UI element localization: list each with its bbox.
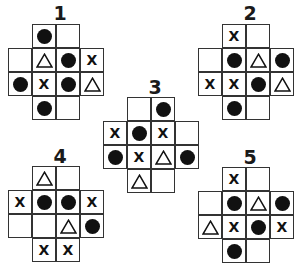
grid-cell[interactable]: [246, 191, 270, 215]
filled-dot-icon: [275, 53, 290, 68]
grid-cell[interactable]: [175, 145, 199, 169]
grid-cell[interactable]: [56, 48, 80, 72]
triangle-icon: [131, 174, 148, 189]
grid-cell[interactable]: [56, 166, 80, 190]
grid-cell[interactable]: [222, 191, 246, 215]
grid-cell[interactable]: [246, 72, 270, 96]
grid-cell[interactable]: [198, 191, 222, 215]
puzzle-number: 5: [238, 148, 262, 167]
triangle-icon: [274, 77, 291, 92]
grid-cell[interactable]: [246, 239, 270, 263]
grid-cell[interactable]: [151, 169, 175, 193]
x-mark-icon: X: [110, 126, 121, 140]
triangle-icon: [202, 220, 219, 235]
grid-cell[interactable]: [270, 191, 294, 215]
x-mark-icon: X: [39, 77, 50, 91]
x-mark-icon: X: [15, 195, 26, 209]
x-mark-icon: X: [134, 150, 145, 164]
grid-cell[interactable]: [198, 215, 222, 239]
grid-cell[interactable]: [56, 190, 80, 214]
grid-cell[interactable]: [151, 97, 175, 121]
puzzle-number: 4: [48, 147, 72, 166]
grid-cell[interactable]: X: [222, 24, 246, 48]
filled-dot-icon: [227, 101, 242, 116]
x-mark-icon: X: [229, 172, 240, 186]
grid-cell[interactable]: X: [80, 190, 104, 214]
grid-cell[interactable]: [270, 72, 294, 96]
grid-cell[interactable]: [270, 48, 294, 72]
grid-cell[interactable]: X: [198, 72, 222, 96]
grid-cell[interactable]: [32, 24, 56, 48]
filled-dot-icon: [227, 196, 242, 211]
grid-cell[interactable]: [246, 96, 270, 120]
grid-cell[interactable]: X: [151, 121, 175, 145]
triangle-icon: [84, 77, 101, 92]
grid-cell[interactable]: [103, 145, 127, 169]
filled-dot-icon: [37, 195, 52, 210]
grid-cell[interactable]: [127, 121, 151, 145]
grid-cell[interactable]: [32, 166, 56, 190]
grid-cell[interactable]: [151, 145, 175, 169]
grid-cell[interactable]: X: [32, 238, 56, 262]
grid-cell[interactable]: [175, 121, 199, 145]
filled-dot-icon: [251, 220, 266, 235]
grid-cell[interactable]: X: [56, 238, 80, 262]
grid-cell[interactable]: [8, 48, 32, 72]
grid-cell[interactable]: [246, 24, 270, 48]
grid-cell[interactable]: [8, 214, 32, 238]
grid-cell[interactable]: [246, 167, 270, 191]
grid-cell[interactable]: [56, 24, 80, 48]
filled-dot-icon: [85, 219, 100, 234]
x-mark-icon: X: [229, 220, 240, 234]
grid-cell[interactable]: [80, 72, 104, 96]
puzzle-number: 1: [48, 4, 72, 23]
grid-cell[interactable]: X: [32, 72, 56, 96]
x-mark-icon: X: [277, 220, 288, 234]
grid-cell[interactable]: [56, 96, 80, 120]
grid-cell[interactable]: X: [103, 121, 127, 145]
filled-dot-icon: [13, 77, 28, 92]
grid-cell[interactable]: [222, 48, 246, 72]
grid-cell[interactable]: [198, 48, 222, 72]
filled-dot-icon: [61, 195, 76, 210]
grid-cell[interactable]: [32, 214, 56, 238]
grid-cell[interactable]: X: [80, 48, 104, 72]
grid-cell[interactable]: [127, 97, 151, 121]
filled-dot-icon: [251, 77, 266, 92]
x-mark-icon: X: [87, 53, 98, 67]
filled-dot-icon: [61, 77, 76, 92]
grid-cell[interactable]: [56, 214, 80, 238]
grid-cell[interactable]: X: [222, 167, 246, 191]
grid-cell[interactable]: X: [127, 145, 151, 169]
grid-cell[interactable]: X: [222, 72, 246, 96]
filled-dot-icon: [61, 53, 76, 68]
x-mark-icon: X: [229, 77, 240, 91]
x-mark-icon: X: [205, 77, 216, 91]
grid-cell[interactable]: [56, 72, 80, 96]
filled-dot-icon: [180, 150, 195, 165]
x-mark-icon: X: [39, 243, 50, 257]
x-mark-icon: X: [229, 29, 240, 43]
grid-cell[interactable]: [127, 169, 151, 193]
filled-dot-icon: [227, 244, 242, 259]
grid-cell[interactable]: X: [8, 190, 32, 214]
grid-cell[interactable]: [8, 72, 32, 96]
grid-cell[interactable]: [222, 96, 246, 120]
triangle-icon: [250, 196, 267, 211]
triangle-icon: [155, 150, 172, 165]
filled-dot-icon: [156, 102, 171, 117]
grid-cell[interactable]: X: [222, 215, 246, 239]
grid-cell[interactable]: [32, 48, 56, 72]
x-mark-icon: X: [158, 126, 169, 140]
grid-cell[interactable]: [32, 96, 56, 120]
grid-cell[interactable]: [80, 214, 104, 238]
puzzle-number: 2: [238, 4, 262, 23]
grid-cell[interactable]: [222, 239, 246, 263]
triangle-icon: [250, 53, 267, 68]
grid-cell[interactable]: [32, 190, 56, 214]
grid-cell[interactable]: [246, 215, 270, 239]
filled-dot-icon: [132, 126, 147, 141]
grid-cell[interactable]: [246, 48, 270, 72]
grid-cell[interactable]: X: [270, 215, 294, 239]
filled-dot-icon: [37, 101, 52, 116]
